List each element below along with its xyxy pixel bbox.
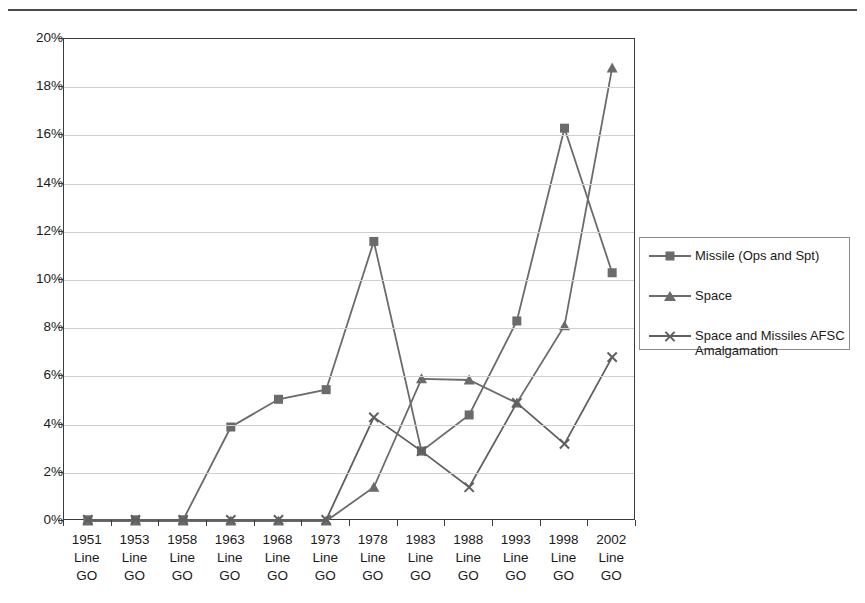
x-tick-mark: [540, 520, 541, 526]
y-tick-label: 0%: [15, 513, 63, 527]
y-tick-label: 14%: [15, 176, 63, 190]
data-point-x: [608, 353, 617, 362]
x-tick-mark: [254, 520, 255, 526]
data-point-triangle: [368, 482, 379, 492]
data-point-x: [560, 439, 569, 448]
x-tick-mark: [206, 520, 207, 526]
x-tick-mark: [349, 520, 350, 526]
legend-label: Space and Missiles AFSC Amalgamation: [691, 328, 849, 358]
x-tick-mark: [63, 520, 64, 526]
data-point-square: [465, 410, 474, 419]
x-tick-mark: [397, 520, 398, 526]
y-axis: 0%2%4%6%8%10%12%14%16%18%20%: [8, 38, 63, 520]
legend-marker-square-icon: [649, 249, 691, 263]
x-tick-mark: [111, 520, 112, 526]
x-tick-mark: [301, 520, 302, 526]
y-tick-label: 12%: [15, 224, 63, 238]
gridline: [64, 328, 634, 329]
y-tick-label: 18%: [15, 79, 63, 93]
x-tick-mark: [444, 520, 445, 526]
chart-legend: Missile (Ops and Spt)SpaceSpace and Miss…: [639, 237, 850, 350]
series-line: [88, 357, 612, 520]
x-axis-ticks: [63, 520, 635, 527]
y-tick-label: 16%: [15, 127, 63, 141]
legend-item[interactable]: Missile (Ops and Spt): [649, 248, 819, 263]
plot-area: [63, 38, 635, 520]
data-point-triangle: [607, 62, 618, 72]
data-point-square: [512, 316, 521, 325]
gridline: [64, 135, 634, 136]
x-label-year: 2002: [581, 531, 641, 549]
x-tick-mark: [635, 520, 636, 526]
x-tick-mark: [158, 520, 159, 526]
y-tick-label: 8%: [15, 320, 63, 334]
data-point-square: [369, 237, 378, 246]
legend-label: Space: [691, 288, 732, 303]
y-tick-label: 2%: [15, 465, 63, 479]
data-point-square: [560, 124, 569, 133]
data-point-x: [465, 483, 474, 492]
series-x: [83, 353, 617, 525]
legend-marker-triangle-icon: [649, 289, 691, 303]
legend-marker-x-icon: [649, 329, 691, 343]
y-tick-label: 10%: [15, 272, 63, 286]
gridline: [64, 280, 634, 281]
legend-item[interactable]: Space: [649, 288, 732, 303]
gridline: [64, 473, 634, 474]
x-label-line: Line: [581, 549, 641, 567]
y-tick-label: 6%: [15, 368, 63, 382]
data-point-square: [274, 395, 283, 404]
y-tick-label: 20%: [15, 31, 63, 45]
x-tick-label: 2002LineGO: [581, 531, 641, 585]
gridline: [64, 87, 634, 88]
gridline: [64, 376, 634, 377]
gridline: [64, 425, 634, 426]
x-label-go: GO: [581, 567, 641, 585]
series-triangle: [82, 62, 617, 525]
legend-item[interactable]: Space and Missiles AFSC Amalgamation: [649, 328, 849, 358]
legend-label: Missile (Ops and Spt): [691, 248, 819, 263]
series-line: [88, 128, 612, 520]
gridline: [64, 232, 634, 233]
x-tick-mark: [492, 520, 493, 526]
chart-figure: 0%2%4%6%8%10%12%14%16%18%20% 1951LineGO1…: [0, 0, 865, 603]
x-axis-labels: 1951LineGO1953LineGO1958LineGO1963LineGO…: [63, 531, 635, 601]
gridline: [64, 184, 634, 185]
data-point-square: [608, 268, 617, 277]
data-point-square: [322, 385, 331, 394]
x-tick-mark: [587, 520, 588, 526]
data-point-x: [369, 413, 378, 422]
y-tick-label: 4%: [15, 417, 63, 431]
